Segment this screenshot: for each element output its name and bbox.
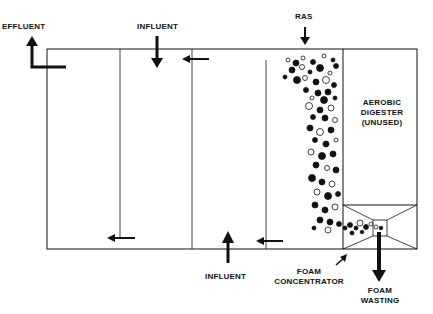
influent-up-arrow-icon <box>222 231 234 263</box>
aeration-bubbles <box>283 54 383 235</box>
digester-line-1: AEROBIC <box>352 98 412 108</box>
flow-left-arrow-icon <box>256 237 283 245</box>
influent-top-label: INFLUENT <box>137 22 178 32</box>
foam-concentrator-line-2: CONCENTRATOR <box>274 277 344 287</box>
digester-label: AEROBIC DIGESTER (UNUSED) <box>352 98 412 128</box>
foam-wasting-arrow-icon <box>372 232 386 282</box>
influent-down-arrow-icon <box>151 36 163 68</box>
flow-left-arrow-icon <box>182 55 209 63</box>
foam-wasting-line-2: WASTING <box>358 296 402 306</box>
influent-bottom-label: INFLUENT <box>205 272 246 282</box>
digester-line-3: (UNUSED) <box>352 118 412 128</box>
foam-wasting-line-1: FOAM <box>358 286 402 296</box>
effluent-label: EFFLUENT <box>2 22 45 32</box>
effluent-arrow-icon <box>26 36 66 67</box>
foam-concentrator-label: FOAM CONCENTRATOR <box>274 267 344 287</box>
ras-label: RAS <box>295 12 313 22</box>
pointer-arrow-icon <box>336 254 347 265</box>
basin-outline <box>47 49 417 249</box>
ras-arrow-icon <box>300 27 310 45</box>
digester-line-2: DIGESTER <box>352 108 412 118</box>
foam-wasting-label: FOAM WASTING <box>358 286 402 306</box>
foam-concentrator-line-1: FOAM <box>274 267 344 277</box>
flow-left-arrow-icon <box>107 234 135 242</box>
process-diagram <box>0 0 433 314</box>
